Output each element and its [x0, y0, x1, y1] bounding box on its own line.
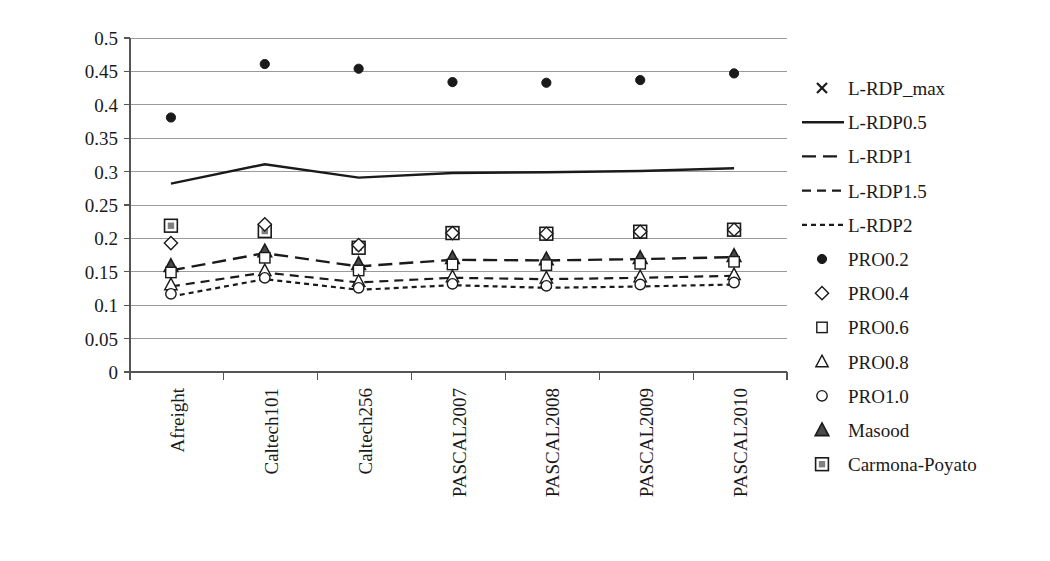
y-axis-tick-labels: 00.050.10.150.20.250.30.350.40.450.5	[85, 28, 119, 383]
legend-item-l-rdp1-5[interactable]: L-RDP1.5	[802, 181, 927, 202]
marker-pro0-2	[166, 113, 175, 122]
legend-marker-swatch	[817, 83, 827, 93]
marker-pro1-0	[541, 281, 551, 291]
marker-pro0-2	[354, 64, 363, 73]
legend-label: L-RDP2	[848, 215, 912, 236]
x-axis	[130, 372, 787, 380]
legend-item-pro0-6[interactable]: PRO0.6	[817, 317, 909, 338]
y-tick-label: 0	[109, 362, 119, 383]
y-tick-label: 0.5	[94, 28, 118, 49]
marker-pro0-6	[541, 260, 551, 270]
legend-label: PRO0.8	[848, 352, 909, 373]
legend-marker-swatch	[817, 254, 826, 263]
legend-item-masood[interactable]: Masood	[815, 420, 910, 441]
legend-label: L-RDP1	[848, 146, 912, 167]
line-chart: 00.050.10.150.20.250.30.350.40.450.5 Afr…	[0, 0, 1050, 561]
x-category-label: PASCAL2007	[449, 388, 470, 497]
marker-pro0-6	[166, 267, 176, 277]
legend-item-pro0-8[interactable]: PRO0.8	[816, 352, 909, 373]
marker-inner	[819, 461, 825, 467]
marker-pro1-0	[166, 289, 176, 299]
chart-container: 00.050.10.150.20.250.30.350.40.450.5 Afr…	[0, 0, 1050, 561]
y-tick-label: 0.45	[85, 61, 118, 82]
legend-label: PRO0.2	[848, 249, 909, 270]
x-axis-category-labels: AfreightCaltech101Caltech256PASCAL2007PA…	[167, 387, 751, 497]
y-tick-label: 0.1	[94, 295, 118, 316]
legend-item-l-rdp2[interactable]: L-RDP2	[802, 215, 912, 236]
legend-marker-swatch	[817, 322, 827, 332]
marker-pro1-0	[447, 279, 457, 289]
y-tick-label: 0.2	[94, 228, 118, 249]
x-category-label: PASCAL2009	[636, 388, 657, 497]
marker-pro0-2	[542, 78, 551, 87]
legend-label: Masood	[848, 420, 910, 441]
y-tick-label: 0.35	[85, 128, 118, 149]
marker-pro1-0	[260, 273, 270, 283]
marker-shape	[815, 423, 829, 436]
legend-label: PRO0.6	[848, 317, 909, 338]
y-axis	[124, 38, 130, 372]
series-line-l-rdp0-5	[171, 164, 734, 183]
marker-pro0-6	[447, 259, 457, 269]
x-category-label: Afreight	[167, 387, 188, 452]
series-markers	[164, 59, 741, 299]
legend-label: L-RDP_max	[848, 78, 946, 99]
marker-inner	[168, 223, 174, 229]
x-category-label: PASCAL2010	[730, 388, 751, 497]
marker-pro1-0	[635, 279, 645, 289]
legend-label: L-RDP1.5	[848, 181, 927, 202]
y-tick-label: 0.3	[94, 162, 118, 183]
legend-label: PRO0.4	[848, 283, 909, 304]
legend-marker-swatch	[815, 423, 829, 436]
marker-pro1-0	[353, 283, 363, 293]
legend-item-pro0-2[interactable]: PRO0.2	[817, 249, 908, 270]
marker-carmona-poyato	[165, 219, 178, 232]
legend-item-l-rdp1[interactable]: L-RDP1	[802, 146, 912, 167]
legend-marker-swatch	[816, 355, 828, 367]
legend: L-RDP_maxL-RDP0.5L-RDP1L-RDP1.5L-RDP2PRO…	[802, 78, 977, 475]
x-category-label: PASCAL2008	[542, 388, 563, 497]
marker-pro0-6	[260, 253, 270, 263]
legend-item-pro1-0[interactable]: PRO1.0	[817, 386, 909, 407]
y-tick-label: 0.15	[85, 262, 118, 283]
legend-label: Carmona-Poyato	[848, 454, 977, 475]
legend-item-l-rdp-max[interactable]: L-RDP_max	[817, 78, 946, 99]
y-tick-label: 0.25	[85, 195, 118, 216]
marker-pro1-0	[729, 277, 739, 287]
legend-marker-swatch	[816, 458, 829, 471]
marker-pro0-2	[260, 59, 269, 68]
marker-pro0-6	[729, 257, 739, 267]
legend-item-l-rdp0-5[interactable]: L-RDP0.5	[802, 112, 927, 133]
marker-pro0-2	[729, 69, 738, 78]
y-tick-label: 0.05	[85, 329, 118, 350]
legend-marker-swatch	[815, 287, 828, 300]
gridlines	[130, 38, 787, 372]
legend-marker-swatch	[817, 391, 827, 401]
marker-pro0-6	[635, 259, 645, 269]
marker-pro0-2	[636, 75, 645, 84]
legend-label: PRO1.0	[848, 386, 909, 407]
legend-item-carmona-poyato[interactable]: Carmona-Poyato	[816, 454, 977, 475]
legend-item-pro0-4[interactable]: PRO0.4	[815, 283, 909, 304]
x-category-label: Caltech101	[261, 388, 282, 475]
legend-label: L-RDP0.5	[848, 112, 927, 133]
x-category-label: Caltech256	[355, 388, 376, 475]
y-tick-label: 0.4	[94, 95, 118, 116]
marker-pro0-2	[448, 77, 457, 86]
